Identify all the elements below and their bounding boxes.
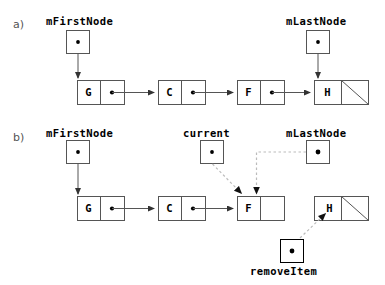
panel-a-node-g-letter: G [77,86,100,98]
panel-a-node-f-letter: F [237,86,260,98]
panel-b-null-slash-icon [342,197,369,221]
panel-a-mfirstnode-box [67,31,90,54]
panel-b-current-label: current [183,127,230,139]
panel-b-removeitem-box [281,240,304,263]
panel-b-link-mlastnode-f [257,152,307,193]
panel-b-mfirstnode-box [67,141,90,164]
linked-list-removal-diagram: a) b) mFirstNode mLastNode G C F H mFirs… [0,0,385,285]
panel-a-mlastnode-box [307,31,330,54]
diagram-canvas [0,0,385,285]
panel-a-mfirstnode-label: mFirstNode [46,15,113,27]
panel-b-mfirstnode-label: mFirstNode [46,127,113,139]
panel-b-mlastnode-label: mLastNode [286,127,347,139]
panel-a-node-c-letter: C [158,86,181,98]
part-label-b: b) [13,131,24,144]
panel-b-removeitem-label: removeItem [250,265,317,277]
panel-a-mlastnode-label: mLastNode [286,15,347,27]
panel-a-node-h-letter: H [314,86,341,98]
panel-b-node-f-letter: F [237,202,260,214]
panel-b-node-h-letter: H [316,202,343,214]
panel-b-link-removeitem-h [300,214,325,238]
panel-b-mlastnode-box [307,141,330,164]
part-label-a: a) [13,18,24,31]
panel-b-current-box [201,141,224,164]
panel-a-null-slash-icon [342,81,369,105]
panel-b-node-c-letter: C [158,202,181,214]
panel-b-link-current-f [213,164,242,193]
panel-b-node-g-letter: G [77,202,100,214]
